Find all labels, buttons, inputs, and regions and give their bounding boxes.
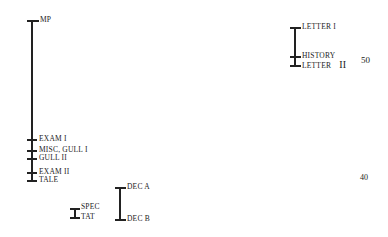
tick-tat [70,217,80,219]
label-letter-ii-suffix: II [339,59,346,70]
label-exam-i: EXAM I [39,135,67,143]
label-gull-ii: GULL II [39,154,67,162]
label-letter-ii: LETTER II [302,61,346,70]
right-column-bar [294,27,296,66]
tick-letter-i [290,27,301,29]
scale-50: 50 [361,55,370,65]
label-history: HISTORY [302,52,335,60]
tick-exam-i [27,139,37,141]
label-dec-a: DEC A [127,183,150,191]
label-spec: SPEC [81,203,100,211]
label-tat: TAT [81,213,95,221]
label-letter-i: LETTER I [302,23,336,31]
label-mp: MP [40,16,51,24]
tick-letter-ii [290,65,301,67]
label-letter-ii-text: LETTER [302,61,331,70]
tick-tale [27,180,37,182]
label-tale: TALE [39,176,58,184]
tick-gull-ii [27,158,37,160]
tick-dec-b [115,219,126,221]
label-dec-b: DEC B [127,215,150,223]
scale-40: 40 [360,173,368,182]
tick-history [290,56,301,58]
left-column-bar [31,20,33,180]
tick-mp [27,20,39,22]
tick-misc-gull-i [27,150,37,152]
dec-bar [119,187,121,220]
tick-spec [70,208,80,210]
tick-exam-ii [27,172,37,174]
tick-dec-a [115,187,126,189]
